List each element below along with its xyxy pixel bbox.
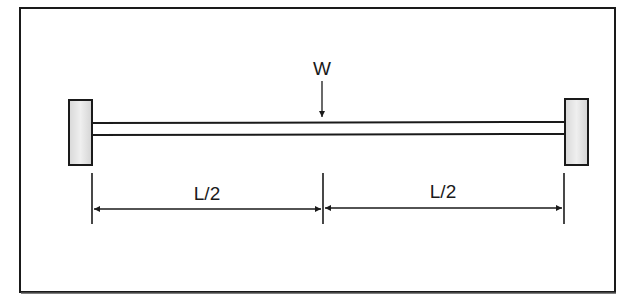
dimension-label-left: L/2 [194, 183, 220, 204]
right-support-block [565, 99, 588, 165]
beam [92, 122, 565, 135]
diagram-frame [20, 8, 615, 292]
beam-diagram: W L/2 L/2 [0, 0, 635, 303]
dimension-label-right: L/2 [430, 181, 456, 202]
left-support-block [69, 100, 92, 165]
load-label: W [313, 58, 331, 79]
